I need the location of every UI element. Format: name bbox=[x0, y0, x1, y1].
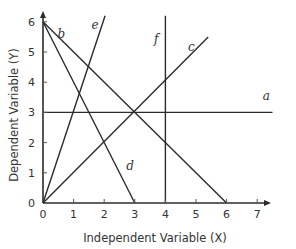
y-tick-label: 2 bbox=[28, 137, 35, 150]
x-axis-label: Independent Variable (X) bbox=[83, 231, 227, 245]
y-tick-label: 3 bbox=[28, 106, 35, 119]
line-e bbox=[43, 16, 105, 203]
x-tick-label: 1 bbox=[70, 208, 77, 221]
y-tick-label: 1 bbox=[28, 167, 35, 180]
line-c bbox=[43, 37, 208, 203]
line-label-c: c bbox=[188, 40, 195, 54]
y-axis-label: Dependent Variable (Y) bbox=[7, 48, 21, 182]
y-tick-label: 5 bbox=[28, 46, 35, 59]
x-tick-label: 0 bbox=[40, 208, 47, 221]
x-axis-arrow-icon bbox=[264, 200, 271, 206]
line-label-b: b bbox=[58, 27, 66, 41]
y-tick-label: 0 bbox=[28, 197, 35, 210]
line-label-f: f bbox=[153, 32, 161, 46]
y-axis-arrow-icon bbox=[40, 11, 46, 18]
x-tick-label: 4 bbox=[162, 208, 169, 221]
labels-layer: abcdef bbox=[58, 18, 270, 173]
x-tick-label: 7 bbox=[254, 208, 261, 221]
y-tick-label: 4 bbox=[28, 76, 35, 89]
line-chart: 012345670123456 abcdef Independent Varia… bbox=[0, 0, 296, 249]
line-label-a: a bbox=[263, 89, 270, 103]
x-tick-label: 6 bbox=[223, 208, 230, 221]
x-tick-label: 2 bbox=[101, 208, 108, 221]
y-tick-label: 6 bbox=[28, 16, 35, 29]
x-tick-label: 3 bbox=[131, 208, 138, 221]
x-tick-label: 5 bbox=[193, 208, 200, 221]
line-label-d: d bbox=[126, 159, 134, 173]
line-label-e: e bbox=[91, 18, 98, 32]
